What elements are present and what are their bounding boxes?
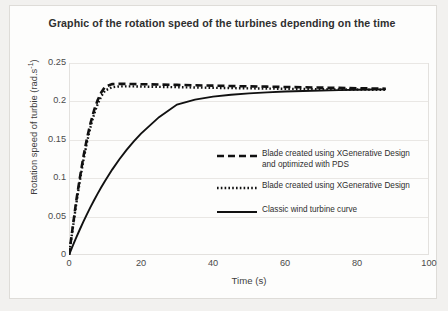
y-axis-title-exponent: -1 — [27, 62, 34, 68]
legend-line-icon — [217, 206, 257, 218]
x-axis-ticks: 020406080100 — [69, 258, 429, 272]
legend-line-icon — [217, 150, 257, 162]
legend-item[interactable]: Blade created using XGenerative Designan… — [217, 149, 435, 170]
x-axis-tick-label: 100 — [409, 258, 448, 268]
legend-label: Classic wind turbine curve — [262, 205, 357, 216]
x-axis-tick-label: 60 — [265, 258, 305, 268]
y-axis-title-paren: ) — [28, 59, 39, 62]
x-axis-title: Time (s) — [69, 275, 429, 286]
y-axis-title-text: Rotation speed of turbie (rad.s — [28, 69, 39, 195]
chart-card: Graphic of the rotation speed of the tur… — [9, 5, 437, 299]
x-axis-tick-label: 0 — [49, 258, 89, 268]
legend-item[interactable]: Blade created using XGenerative Design — [217, 181, 435, 194]
y-axis-title: Rotation speed of turbie (rad.s-1) — [27, 32, 39, 222]
legend-item[interactable]: Classic wind turbine curve — [217, 205, 435, 218]
x-axis-tick-label: 20 — [121, 258, 161, 268]
x-axis-tick-label: 80 — [337, 258, 377, 268]
legend-label: Blade created using XGenerative Designan… — [262, 149, 410, 170]
legend-label: Blade created using XGenerative Design — [262, 181, 410, 192]
x-axis-tick-label: 40 — [193, 258, 233, 268]
legend-line-icon — [217, 182, 257, 194]
plot-wrapper: 00.050.10.150.20.25 Rotation speed of tu… — [10, 6, 438, 300]
chart-legend: Blade created using XGenerative Designan… — [217, 149, 435, 229]
